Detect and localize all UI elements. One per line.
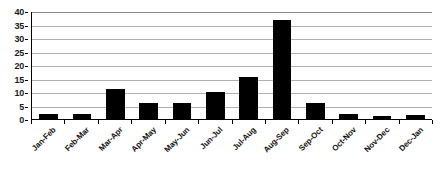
bar[interactable] xyxy=(373,116,392,119)
bar-slot xyxy=(65,12,98,119)
bar-slot xyxy=(32,12,65,119)
bar[interactable] xyxy=(106,89,125,119)
bar[interactable] xyxy=(339,114,358,119)
y-tick-mark xyxy=(25,26,28,27)
y-tick-label: 10 xyxy=(14,89,24,98)
bar-slot xyxy=(299,12,332,119)
plot-area xyxy=(31,12,432,120)
x-tick-label: May-Jun xyxy=(163,126,191,154)
x-tick-label: Aug-Sep xyxy=(263,126,291,154)
bar[interactable] xyxy=(406,115,425,119)
x-tick-label: Sep-Oct xyxy=(298,126,325,153)
y-tick-mark xyxy=(25,66,28,67)
bar-slot xyxy=(265,12,298,119)
y-tick-mark xyxy=(25,80,28,81)
x-tick-label: Dec-Jan xyxy=(398,126,425,153)
y-tick-mark xyxy=(25,120,28,121)
bar-slot xyxy=(332,12,365,119)
y-axis: 0510152025303540 xyxy=(0,12,28,120)
y-tick-label: 0 xyxy=(19,116,24,125)
y-tick-label: 15 xyxy=(14,75,24,84)
bar-slot xyxy=(165,12,198,119)
y-tick-label: 40 xyxy=(14,8,24,17)
y-tick-label: 5 xyxy=(19,102,24,111)
bar[interactable] xyxy=(73,114,92,119)
y-tick-mark xyxy=(25,93,28,94)
bar-slot xyxy=(365,12,398,119)
y-tick-label: 20 xyxy=(14,62,24,71)
x-tick-label: Feb-Mar xyxy=(64,126,91,153)
bar[interactable] xyxy=(306,103,325,119)
bar-slot xyxy=(232,12,265,119)
x-tick-label: Jun-Jul xyxy=(199,126,224,151)
x-tick-label: Mar-Apr xyxy=(97,126,124,153)
y-tick-label: 35 xyxy=(14,21,24,30)
y-tick-mark xyxy=(25,12,28,13)
bar[interactable] xyxy=(139,103,158,119)
x-tick-label: Oct-Nov xyxy=(331,126,358,153)
bar-slot xyxy=(399,12,432,119)
bar-slot xyxy=(199,12,232,119)
bar-slot xyxy=(132,12,165,119)
x-tick-label: Jul-Aug xyxy=(232,126,258,152)
x-tick-label: Nov-Dec xyxy=(363,126,391,154)
x-tick-label: Jan-Feb xyxy=(31,126,58,153)
bar-slot xyxy=(99,12,132,119)
y-tick-label: 25 xyxy=(14,48,24,57)
bar[interactable] xyxy=(273,20,292,119)
bar[interactable] xyxy=(206,92,225,119)
bar-chart: 0510152025303540 Jan-FebFeb-MarMar-AprAp… xyxy=(0,0,444,172)
x-axis: Jan-FebFeb-MarMar-AprApr-MayMay-JunJun-J… xyxy=(31,120,432,172)
y-tick-mark xyxy=(25,53,28,54)
y-tick-mark xyxy=(25,107,28,108)
bars-layer xyxy=(32,12,432,119)
y-tick-mark xyxy=(25,39,28,40)
y-tick-label: 30 xyxy=(14,35,24,44)
bar[interactable] xyxy=(239,77,258,119)
bar[interactable] xyxy=(39,114,58,119)
bar[interactable] xyxy=(173,103,192,119)
x-tick-mark xyxy=(432,120,433,124)
x-tick-label: Apr-May xyxy=(130,126,158,154)
